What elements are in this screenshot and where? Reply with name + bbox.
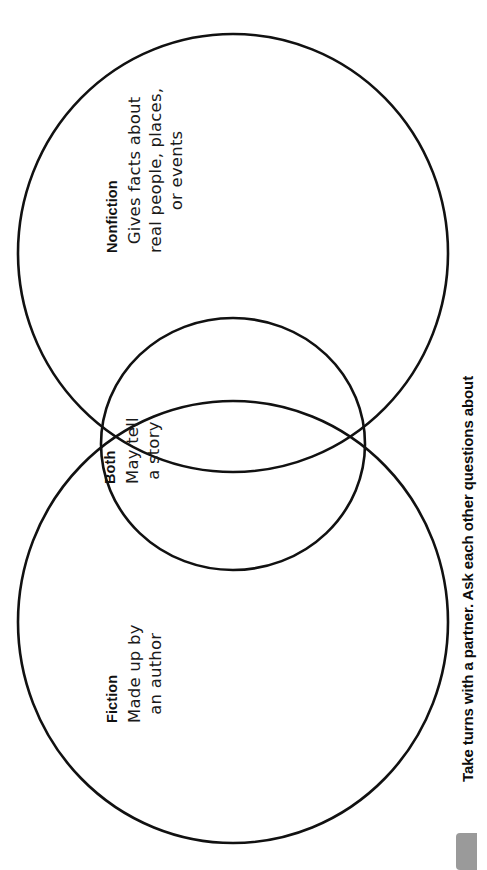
region-body-line: Made up by: [124, 624, 145, 723]
region-label-fiction: Fiction Made up by an author: [103, 624, 166, 723]
page-edge-tab: [456, 833, 477, 870]
worksheet-instruction-caption: Take turns with a partner. Ask each othe…: [459, 376, 476, 782]
nonfiction-circle: [18, 34, 448, 472]
region-body-nonfiction: Gives facts about real people, places, o…: [124, 88, 187, 253]
region-body-line: a story: [143, 417, 164, 484]
region-title-fiction: Fiction: [103, 624, 122, 723]
region-body-fiction: Made up by an author: [124, 624, 166, 723]
region-body-line: or events: [166, 88, 187, 253]
region-label-both: Both May tell a story: [101, 417, 164, 484]
region-body-line: real people, places,: [145, 88, 166, 253]
region-title-both: Both: [101, 417, 120, 484]
region-body-both: May tell a story: [122, 417, 164, 484]
region-title-nonfiction: Nonfiction: [103, 88, 122, 253]
region-body-line: Gives facts about: [124, 88, 145, 253]
fiction-circle: [18, 401, 448, 843]
region-body-line: an author: [145, 624, 166, 723]
region-body-line: May tell: [122, 417, 143, 484]
worksheet-page: Nonfiction Gives facts about real people…: [0, 0, 487, 870]
venn-diagram: [0, 0, 487, 870]
region-label-nonfiction: Nonfiction Gives facts about real people…: [103, 88, 187, 253]
